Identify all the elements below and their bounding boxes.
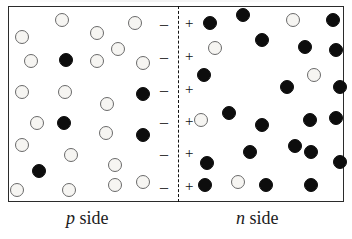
junction-minus-sign: –	[160, 179, 168, 195]
n-side-symbol: n	[236, 208, 245, 228]
open-carrier-circle	[194, 113, 208, 127]
junction-plus-sign: +	[185, 16, 193, 31]
junction-minus-sign: –	[160, 49, 168, 65]
open-carrier-circle	[15, 138, 29, 152]
junction-minus-sign: –	[160, 16, 168, 32]
filled-carrier-circle	[200, 156, 214, 170]
n-side-label: side	[245, 208, 279, 228]
filled-carrier-circle	[298, 40, 312, 54]
open-carrier-circle	[128, 16, 142, 30]
open-carrier-circle	[90, 54, 104, 68]
open-carrier-circle	[231, 175, 245, 189]
junction-plus-sign: +	[185, 49, 193, 64]
filled-carrier-circle	[243, 145, 257, 159]
open-carrier-circle	[15, 30, 29, 44]
semiconductor-bar-outline	[8, 6, 344, 202]
pn-junction-figure: ––––––++++++ p side n side	[0, 0, 352, 239]
filled-carrier-circle	[333, 80, 347, 94]
open-carrier-circle	[286, 13, 300, 27]
filled-carrier-circle	[329, 111, 343, 125]
filled-carrier-circle	[32, 164, 46, 178]
open-carrier-circle	[30, 116, 44, 130]
filled-carrier-circle	[329, 43, 343, 57]
open-carrier-circle	[307, 68, 321, 82]
filled-carrier-circle	[280, 80, 294, 94]
junction-plus-sign: +	[185, 179, 193, 194]
filled-carrier-circle	[136, 128, 150, 142]
junction-dashed-line	[178, 6, 179, 202]
junction-minus-sign: –	[160, 114, 168, 130]
p-side-symbol: p	[66, 208, 75, 228]
open-carrier-circle	[10, 183, 24, 197]
junction-plus-sign: +	[185, 146, 193, 161]
open-carrier-circle	[55, 13, 69, 27]
open-carrier-circle	[15, 85, 29, 99]
filled-carrier-circle	[198, 178, 212, 192]
open-carrier-circle	[208, 41, 222, 55]
filled-carrier-circle	[255, 118, 269, 132]
filled-carrier-circle	[197, 68, 211, 82]
n-side-caption: n side	[236, 208, 279, 229]
filled-carrier-circle	[57, 116, 71, 130]
filled-carrier-circle	[236, 8, 250, 22]
junction-plus-sign: +	[185, 82, 193, 97]
filled-carrier-circle	[304, 145, 318, 159]
filled-carrier-circle	[136, 87, 150, 101]
open-carrier-circle	[99, 126, 113, 140]
open-carrier-circle	[108, 158, 122, 172]
open-carrier-circle	[136, 175, 150, 189]
open-carrier-circle	[24, 54, 38, 68]
filled-carrier-circle	[303, 113, 317, 127]
open-carrier-circle	[58, 85, 72, 99]
p-side-caption: p side	[66, 208, 109, 229]
open-carrier-circle	[136, 56, 150, 70]
open-carrier-circle	[100, 97, 114, 111]
open-carrier-circle	[111, 42, 125, 56]
open-carrier-circle	[62, 183, 76, 197]
open-carrier-circle	[108, 178, 122, 192]
filled-carrier-circle	[222, 106, 236, 120]
junction-minus-sign: –	[160, 82, 168, 98]
filled-carrier-circle	[255, 33, 269, 47]
junction-minus-sign: –	[160, 146, 168, 162]
junction-plus-sign: +	[185, 114, 193, 129]
filled-carrier-circle	[203, 16, 217, 30]
scan-edge-artifact	[0, 0, 352, 2]
open-carrier-circle	[64, 148, 78, 162]
filled-carrier-circle	[304, 178, 318, 192]
filled-carrier-circle	[259, 178, 273, 192]
p-side-label: side	[75, 208, 109, 228]
open-carrier-circle	[90, 26, 104, 40]
filled-carrier-circle	[333, 155, 347, 169]
filled-carrier-circle	[288, 139, 302, 153]
filled-carrier-circle	[59, 53, 73, 67]
filled-carrier-circle	[326, 13, 340, 27]
